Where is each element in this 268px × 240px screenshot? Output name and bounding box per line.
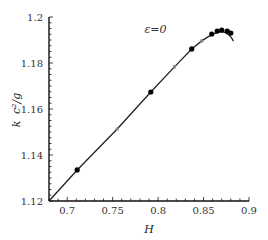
y-tick-label: 1.16 [21,104,43,115]
data-point-marker [219,28,224,33]
x-tick-label: 0.85 [192,205,214,216]
y-tick-label: 1.18 [21,58,43,69]
epsilon-annotation: ε=0 [144,23,166,36]
chart: 0.70.750.80.850.9 1.121.141.161.181.2 ε=… [0,0,268,240]
data-point-marker [189,46,194,51]
data-point-marker [75,167,80,172]
data-point-marker [209,31,214,36]
data-point-marker [115,127,119,131]
y-axis-label-k: k [10,120,23,127]
y-tick-label: 1.14 [21,150,43,161]
x-tick-label: 0.7 [59,205,75,216]
x-tick-label: 0.9 [241,205,257,216]
y-tick-label: 1.12 [21,196,43,207]
y-axis-label-rest: c²/g [10,93,23,114]
data-point-marker [148,89,153,94]
data-point-marker [228,30,233,35]
data-curve [49,32,234,201]
axes [49,17,249,201]
y-axis-ticks: 1.121.141.161.181.2 [21,12,53,207]
data-point-marker [173,65,177,69]
data-point-marker [200,39,204,43]
y-tick-label: 1.2 [27,12,43,23]
plot-area [49,28,234,201]
y-axis-label: k c²/g [10,93,23,128]
x-axis-ticks: 0.70.750.80.850.9 [49,197,257,216]
x-tick-label: 0.75 [102,205,124,216]
x-axis-label: H [143,223,154,236]
x-tick-label: 0.8 [150,205,166,216]
data-point-marker [215,28,220,33]
svg-text:k c²/g: k c²/g [10,93,23,128]
